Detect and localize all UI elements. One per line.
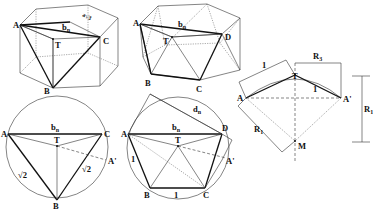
label-edge: a√3	[82, 12, 93, 22]
label-T: T	[55, 40, 61, 50]
label-one-right: 1	[313, 84, 317, 94]
label-D: D	[225, 32, 231, 42]
label-A: A	[121, 129, 128, 139]
label-bn: bn	[51, 122, 60, 133]
label-C: C	[203, 190, 209, 200]
label-one-top: 1	[262, 60, 266, 70]
label-T: T	[163, 36, 169, 46]
label-C: C	[104, 129, 110, 139]
label-R3: R3	[313, 51, 322, 62]
label-bn: bn	[172, 122, 181, 133]
label-A: A	[237, 93, 244, 103]
label-one-bottom: 1	[174, 190, 178, 200]
label-A-prime: A'	[226, 156, 235, 166]
panel-arc-construction: A A' T M 1 1 R3 R1 R1	[237, 51, 373, 162]
label-B: B	[44, 86, 50, 96]
label-dn: dn	[193, 104, 202, 115]
label-B: B	[144, 190, 150, 200]
label-bn: bn	[62, 22, 71, 33]
label-sqrt2-left: √2	[18, 170, 27, 180]
geometry-figure: A B C T bn a√3 A B C D T bn	[0, 0, 373, 209]
label-one-left: 1	[131, 154, 135, 164]
label-C: C	[103, 36, 109, 46]
label-A: A	[133, 18, 140, 28]
label-bn: bn	[178, 19, 187, 30]
label-A-prime: A'	[108, 156, 117, 166]
label-M: M	[298, 141, 306, 151]
panel-circle-pentagon: A B C D T A' bn dn 1 1	[121, 94, 235, 200]
label-R1-right: R1	[364, 104, 373, 115]
label-R1-left: R1	[254, 124, 263, 135]
label-B: B	[145, 78, 151, 88]
panel-hex-prism: A B C T bn a√3	[13, 5, 118, 96]
label-sqrt2-right: √2	[82, 164, 91, 174]
label-A-prime: A'	[343, 94, 352, 104]
panel-circle-triangle: A B C T A' bn √2 √2	[1, 96, 117, 209]
label-T: T	[292, 71, 298, 81]
label-C: C	[196, 84, 202, 94]
panel-hex-antiprism: A B C D T bn	[133, 4, 240, 94]
label-D: D	[222, 123, 228, 133]
label-A: A	[13, 20, 20, 30]
label-A: A	[1, 129, 8, 139]
label-T: T	[54, 135, 60, 145]
label-B: B	[53, 201, 59, 209]
label-T: T	[175, 135, 181, 145]
